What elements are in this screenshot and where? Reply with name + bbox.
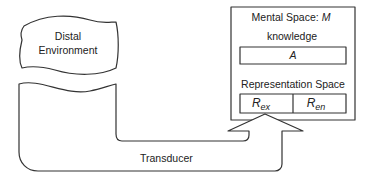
mental-space-box: Mental Space: M knowledge A Representati… bbox=[231, 7, 355, 120]
diagram-canvas: Distal Environment Mental Space: M knowl… bbox=[0, 0, 372, 184]
knowledge-value: A bbox=[288, 49, 296, 61]
distal-environment-shape: Distal Environment bbox=[20, 16, 119, 74]
distal-label-line2: Environment bbox=[39, 44, 98, 56]
mental-space-title: Mental Space: M bbox=[252, 11, 331, 23]
knowledge-label: knowledge bbox=[267, 30, 317, 42]
distal-label-line1: Distal bbox=[55, 30, 81, 42]
representation-space-label: Representation Space bbox=[241, 78, 345, 90]
transducer-label: Transducer bbox=[140, 152, 193, 164]
